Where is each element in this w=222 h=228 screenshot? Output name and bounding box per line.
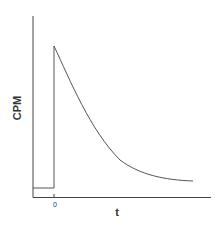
x-axis-label: t — [111, 206, 123, 218]
chart-canvas — [0, 0, 222, 228]
y-axis-label: CPM — [9, 93, 25, 123]
cpm-curve — [33, 46, 193, 188]
x-tick-label-zero: 0 — [51, 201, 59, 208]
